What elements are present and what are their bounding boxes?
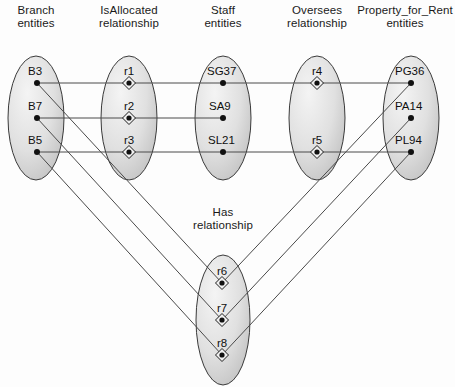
- node-label-PG36: PG36: [395, 65, 424, 77]
- node-label-r4: r4: [312, 65, 322, 77]
- entity-node-SG37: [220, 80, 226, 86]
- header-line2: relationship: [153, 219, 293, 232]
- node-label-r1: r1: [124, 65, 134, 77]
- node-label-r6: r6: [217, 265, 227, 277]
- header-line1: Has: [153, 206, 293, 219]
- node-label-r5: r5: [312, 134, 322, 146]
- node-label-r3: r3: [124, 134, 134, 146]
- node-label-SL21: SL21: [208, 134, 235, 146]
- entity-node-PA14: [408, 115, 414, 121]
- node-label-SA9: SA9: [209, 100, 231, 112]
- relationship-node-r8: [219, 352, 224, 357]
- relationship-node-r5: [314, 149, 319, 154]
- relationship-node-r6: [219, 280, 224, 285]
- entity-node-SA9: [220, 115, 226, 121]
- relationship-node-r1: [126, 80, 131, 85]
- relationship-node-r2: [126, 115, 131, 120]
- entity-node-SL21: [220, 149, 226, 155]
- relationship-node-r7: [219, 317, 224, 322]
- node-label-B5: B5: [28, 134, 42, 146]
- instance-diagram: BranchentitiesIsAllocatedrelationshipSta…: [0, 0, 455, 387]
- node-label-PA14: PA14: [395, 100, 422, 112]
- column-header-property: Property_for_Rententities: [335, 4, 455, 30]
- header-line1: Property_for_Rent: [335, 4, 455, 17]
- node-label-B7: B7: [28, 100, 42, 112]
- entity-node-B5: [34, 149, 40, 155]
- node-label-B3: B3: [28, 65, 42, 77]
- relationship-node-r3: [126, 149, 131, 154]
- header-line2: entities: [335, 17, 455, 30]
- node-label-r7: r7: [217, 302, 227, 314]
- entity-node-PG36: [408, 80, 414, 86]
- entity-node-B7: [34, 115, 40, 121]
- column-header-has: Hasrelationship: [153, 206, 293, 232]
- entity-node-B3: [34, 80, 40, 86]
- node-label-PL94: PL94: [395, 134, 422, 146]
- node-label-r2: r2: [124, 100, 134, 112]
- relationship-node-r4: [314, 80, 319, 85]
- entity-node-PL94: [408, 149, 414, 155]
- node-label-r8: r8: [217, 337, 227, 349]
- node-label-SG37: SG37: [207, 65, 236, 77]
- diagram-canvas: [0, 0, 455, 387]
